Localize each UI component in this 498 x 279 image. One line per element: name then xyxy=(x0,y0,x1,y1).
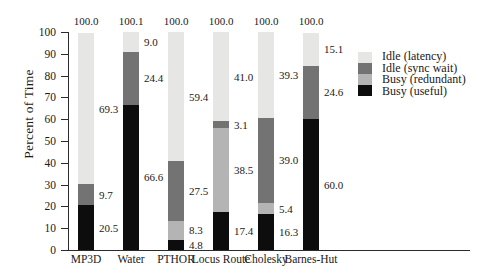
bar-segment-label: 69.3 xyxy=(99,104,118,115)
bar-segment xyxy=(303,33,319,66)
y-axis-tick-label: 20 xyxy=(0,201,56,213)
y-axis-tick-label: 30 xyxy=(0,180,56,192)
bar-group: 60.024.615.1100.0 xyxy=(303,32,319,250)
y-axis-tick-label: 40 xyxy=(0,158,56,170)
bar-segment xyxy=(258,203,274,215)
bar-group: 17.438.53.141.0100.0 xyxy=(213,32,229,250)
bar-total-label: 100.0 xyxy=(289,16,333,27)
bar-segment-label: 24.4 xyxy=(144,73,163,84)
y-axis-tick-label: 60 xyxy=(0,114,56,126)
bar-segment xyxy=(303,66,319,120)
bar-segment xyxy=(123,52,139,105)
y-axis-tick-label: 10 xyxy=(0,223,56,235)
x-axis-tick-label: Barnes-Hut xyxy=(266,254,356,266)
bar-total-label: 100.0 xyxy=(154,16,198,27)
x-axis-line xyxy=(68,250,470,251)
bar-segment-label: 4.8 xyxy=(189,240,203,251)
bar-segment xyxy=(213,121,229,128)
bar-segment xyxy=(213,212,229,250)
bar-segment-label: 8.3 xyxy=(189,225,203,236)
legend-label-column: Idle (latency)Idle (sync wait)Busy (redu… xyxy=(382,51,466,97)
bar-segment-label: 59.4 xyxy=(189,92,208,103)
bar-segment xyxy=(123,32,139,52)
bar-segment xyxy=(168,240,184,250)
bar-total-label: 100.1 xyxy=(109,16,153,27)
bar-segment-label: 41.0 xyxy=(234,72,253,83)
bar-group: 4.88.327.559.4100.0 xyxy=(168,32,184,250)
bar-segment-label: 16.3 xyxy=(279,227,298,238)
legend-swatch xyxy=(358,63,372,74)
bar-total-label: 100.0 xyxy=(199,16,243,27)
bar-segment-label: 9.0 xyxy=(144,37,158,48)
legend-label: Busy (useful) xyxy=(382,86,466,98)
bar-segment-label: 9.7 xyxy=(99,190,113,201)
bar-segment xyxy=(78,205,94,250)
legend-swatch xyxy=(358,52,372,63)
bar-segment-label: 15.1 xyxy=(324,44,343,55)
bar-segment-label: 38.5 xyxy=(234,165,253,176)
bar-segment-label: 60.0 xyxy=(324,180,343,191)
bar-segment xyxy=(258,118,274,203)
legend-swatch xyxy=(358,74,372,85)
bar-segment xyxy=(303,119,319,250)
bar-segment-label: 3.1 xyxy=(234,120,248,131)
y-axis-tick-label: 80 xyxy=(0,71,56,83)
bar-segment-label: 20.5 xyxy=(99,223,118,234)
bar-segment-label: 24.6 xyxy=(324,87,343,98)
bar-segment xyxy=(78,184,94,205)
bar-segment-label: 39.3 xyxy=(279,70,298,81)
bar-segment-label: 39.0 xyxy=(279,155,298,166)
bar-segment xyxy=(78,33,94,184)
bar-segment-label: 5.4 xyxy=(279,204,293,215)
bar-segment xyxy=(168,161,184,221)
y-axis-tick-label: 70 xyxy=(0,92,56,104)
bar-total-label: 100.0 xyxy=(244,16,288,27)
bar-segment-label: 66.6 xyxy=(144,172,163,183)
stacked-bar-chart: Percent of Time 1009080706050403020100 M… xyxy=(0,0,498,279)
bar-segment xyxy=(213,32,229,121)
bar-segment xyxy=(258,32,274,118)
bar-segment xyxy=(213,128,229,212)
y-axis-tick-label: 50 xyxy=(0,136,56,148)
bar-segment xyxy=(123,105,139,250)
bar-segment-label: 27.5 xyxy=(189,186,208,197)
bar-segment xyxy=(168,32,184,161)
bar-total-label: 100.0 xyxy=(64,16,108,27)
bar-group: 16.35.439.039.3100.0 xyxy=(258,32,274,250)
y-axis-tick xyxy=(61,250,69,251)
bar-group: 66.624.49.0100.1 xyxy=(123,32,139,250)
bar-segment xyxy=(258,214,274,250)
bar-segment xyxy=(168,221,184,239)
legend-swatch-column xyxy=(358,52,372,96)
bar-segment-label: 17.4 xyxy=(234,226,253,237)
y-axis-tick-label: 100 xyxy=(0,27,56,39)
legend-swatch xyxy=(358,85,372,96)
bar-group: 20.59.769.3100.0 xyxy=(78,32,94,250)
y-axis-tick-label: 90 xyxy=(0,49,56,61)
